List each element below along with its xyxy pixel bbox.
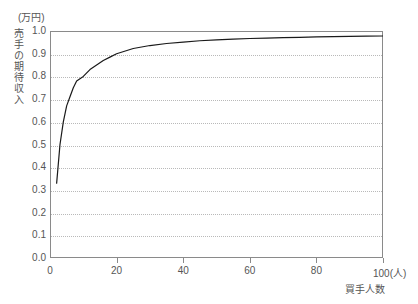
- y-tick-label: 0.1: [24, 229, 46, 240]
- y-axis-unit-label: (万円): [18, 9, 45, 24]
- y-tick-label: 0.8: [24, 70, 46, 81]
- series-line-expected-revenue: [50, 31, 383, 258]
- x-tick-mark: [183, 258, 184, 263]
- y-tick-label: 0.0: [24, 252, 46, 263]
- x-tick-mark: [383, 258, 384, 263]
- y-tick-label: 0.9: [24, 48, 46, 59]
- y-tick-label: 0.3: [24, 184, 46, 195]
- chart-figure: (万円) 売手の期待収入 0.00.10.20.30.40.50.60.70.8…: [0, 0, 418, 304]
- y-tick-label: 0.7: [24, 93, 46, 104]
- x-tick-label: 20: [111, 265, 122, 276]
- y-tick-label: 0.4: [24, 161, 46, 172]
- x-tick-mark: [250, 258, 251, 263]
- y-tick-label: 0.2: [24, 207, 46, 218]
- y-axis-title: 売手の期待収入: [9, 28, 25, 105]
- x-tick-mark: [316, 258, 317, 263]
- x-tick-label: 0: [47, 265, 53, 276]
- x-tick-label: 60: [244, 265, 255, 276]
- y-tick-label: 0.6: [24, 116, 46, 127]
- x-tick-mark: [117, 258, 118, 263]
- y-tick-label: 0.5: [24, 139, 46, 150]
- x-tick-label: 100(人): [373, 265, 406, 280]
- x-axis-title: 買手人数: [345, 281, 385, 296]
- y-tick-label: 1.0: [24, 25, 46, 36]
- x-tick-label: 40: [178, 265, 189, 276]
- x-tick-label: 80: [311, 265, 322, 276]
